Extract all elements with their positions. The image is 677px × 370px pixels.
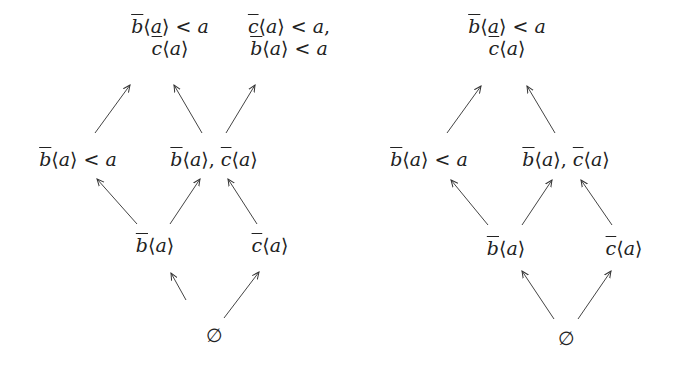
arrow-left-2: [97, 179, 137, 224]
node-right-low1: b⟨a⟩: [487, 237, 525, 259]
node-left-mid1: b⟨a⟩ < a: [39, 148, 117, 170]
node-label: b⟨a⟩ < a: [468, 15, 546, 37]
node-label: c⟨a⟩: [468, 37, 546, 59]
node-label: b⟨a⟩ < a: [248, 37, 330, 59]
arrow-left-7: [226, 85, 255, 133]
node-right-mid1: b⟨a⟩ < a: [390, 148, 468, 170]
node-left-mid2: b⟨a⟩, c⟨a⟩: [170, 148, 257, 170]
node-label: b⟨a⟩, c⟨a⟩: [522, 148, 609, 170]
node-label: b⟨a⟩ < a: [39, 148, 117, 170]
node-label: b⟨a⟩ < a: [390, 148, 468, 170]
node-right-bottom: ∅: [558, 327, 575, 349]
node-right-low2: c⟨a⟩: [606, 237, 643, 259]
node-label: b⟨a⟩: [487, 237, 525, 259]
node-label: b⟨a⟩ < a: [131, 15, 209, 37]
node-label: c⟨a⟩ < a,: [248, 15, 330, 37]
arrow-left-4: [228, 179, 257, 224]
arrow-right-5: [447, 86, 481, 133]
node-label: c⟨a⟩: [131, 37, 209, 59]
arrow-left-1: [224, 272, 259, 318]
arrow-left-0: [171, 273, 186, 300]
node-label: ∅: [558, 327, 575, 349]
node-left-low1: b⟨a⟩: [136, 234, 174, 256]
node-label: c⟨a⟩: [606, 237, 643, 259]
node-left-top1: b⟨a⟩ < ac⟨a⟩: [131, 15, 209, 59]
arrow-right-1: [578, 271, 611, 319]
node-label: b⟨a⟩: [136, 234, 174, 256]
arrow-right-2: [451, 180, 488, 225]
arrow-right-3: [522, 180, 552, 225]
node-left-top2: c⟨a⟩ < a,b⟨a⟩ < a: [248, 15, 330, 59]
arrow-right-6: [527, 86, 555, 133]
arrow-right-4: [581, 180, 612, 225]
arrow-left-5: [95, 85, 130, 133]
node-label: ∅: [206, 324, 223, 346]
arrow-left-6: [174, 85, 202, 133]
arrow-right-0: [522, 271, 554, 319]
node-left-low2: c⟨a⟩: [252, 234, 289, 256]
arrows-layer: [0, 0, 677, 370]
node-label: b⟨a⟩, c⟨a⟩: [170, 148, 257, 170]
arrow-left-3: [170, 179, 200, 224]
node-right-top: b⟨a⟩ < ac⟨a⟩: [468, 15, 546, 59]
node-right-mid2: b⟨a⟩, c⟨a⟩: [522, 148, 609, 170]
node-label: c⟨a⟩: [252, 234, 289, 256]
node-left-bottom: ∅: [206, 324, 223, 346]
hasse-diagrams: b⟨a⟩ < ac⟨a⟩c⟨a⟩ < a,b⟨a⟩ < ab⟨a⟩ < ab⟨a…: [0, 0, 677, 370]
